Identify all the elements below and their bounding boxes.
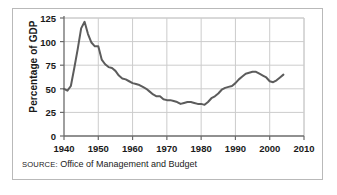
- x-axis-tick-label: 1970: [150, 143, 184, 154]
- y-axis-tick-label: 25: [30, 107, 56, 118]
- chart-figure: Percentage of GDP 0255075100125194019501…: [12, 8, 323, 180]
- line-chart: [13, 9, 324, 156]
- x-axis-tick-label: 1990: [218, 143, 252, 154]
- plot-area: Percentage of GDP 0255075100125194019501…: [13, 9, 324, 156]
- source-note: SOURCE: Office of Management and Budget: [22, 159, 197, 169]
- x-axis-tick-label: 1960: [116, 143, 150, 154]
- x-axis-tick-label: 2000: [253, 143, 287, 154]
- x-axis-tick-label: 1980: [184, 143, 218, 154]
- y-axis-tick-label: 125: [30, 13, 56, 24]
- y-axis-tick-label: 75: [30, 60, 56, 71]
- source-value: Office of Management and Budget: [58, 159, 197, 169]
- x-axis-tick-label: 1950: [81, 143, 115, 154]
- source-label: SOURCE:: [22, 160, 58, 169]
- y-axis-tick-label: 50: [30, 83, 56, 94]
- x-axis-tick-label: 1940: [47, 143, 81, 154]
- x-axis-tick-label: 2010: [287, 143, 321, 154]
- data-line: [64, 22, 283, 105]
- y-axis-tick-label: 100: [30, 36, 56, 47]
- y-axis-tick-label: 0: [30, 131, 56, 142]
